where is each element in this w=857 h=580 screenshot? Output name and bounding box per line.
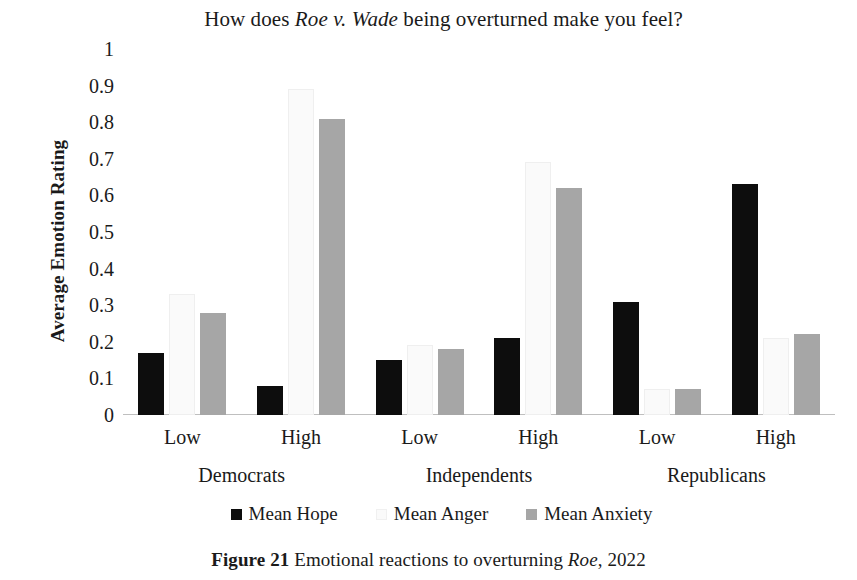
chart-title-part-after: being overturned make you feel? <box>398 7 683 31</box>
chart-legend: Mean HopeMean AngerMean Anxiety <box>0 503 857 525</box>
x-axis-group-label-democrats: Democrats <box>198 463 285 487</box>
bar-independents-high-anxiety <box>556 188 582 415</box>
plot-area <box>123 49 835 415</box>
legend-item-anger: Mean Anger <box>376 503 488 525</box>
caption-text-before: Emotional reactions to overturning <box>289 549 568 570</box>
legend-swatch-anxiety-icon <box>526 509 537 520</box>
x-axis-baseline <box>123 414 835 415</box>
bar-democrats-high-anger <box>288 89 314 415</box>
bar-republicans-low-anger <box>644 389 670 415</box>
legend-item-anxiety: Mean Anxiety <box>526 503 652 525</box>
bar-democrats-high-hope <box>257 386 283 415</box>
y-axis-tick-label: 0.6 <box>30 185 114 205</box>
y-axis-tick-label: 0.4 <box>30 259 114 279</box>
x-axis-tick-label-low: Low <box>639 425 676 449</box>
y-axis-tick-label: 0.2 <box>30 332 114 352</box>
legend-label: Mean Hope <box>249 503 338 525</box>
bar-independents-high-anger <box>525 162 551 415</box>
x-axis-tick-label-high: High <box>756 425 796 449</box>
y-axis-tick-labels: 10.90.80.70.60.50.40.30.20.10 <box>30 0 114 580</box>
legend-swatch-anger-icon <box>376 509 387 520</box>
y-axis-tick-label: 0.8 <box>30 112 114 132</box>
x-axis-group-label-independents: Independents <box>426 463 533 487</box>
figure-number: Figure 21 <box>211 549 289 570</box>
legend-label: Mean Anxiety <box>544 503 652 525</box>
figure-caption: Figure 21 Emotional reactions to overtur… <box>0 548 857 572</box>
caption-italic-roe: Roe <box>568 549 598 570</box>
bar-republicans-high-hope <box>732 184 758 415</box>
x-axis-level-labels: LowHighLowHighLowHigh <box>123 425 835 451</box>
x-axis-tick-label-high: High <box>518 425 558 449</box>
bar-independents-low-anxiety <box>438 349 464 415</box>
y-axis-tick-label: 0.1 <box>30 368 114 388</box>
figure-container: How does Roe v. Wade being overturned ma… <box>0 0 857 580</box>
bar-republicans-high-anger <box>763 338 789 415</box>
bar-republicans-low-hope <box>613 302 639 415</box>
bar-democrats-low-anxiety <box>200 313 226 415</box>
x-axis-group-label-republicans: Republicans <box>667 463 766 487</box>
legend-swatch-hope-icon <box>231 509 242 520</box>
bar-independents-low-anger <box>407 345 433 415</box>
bar-democrats-low-hope <box>138 353 164 415</box>
x-axis-group-labels: DemocratsIndependentsRepublicans <box>123 463 835 491</box>
chart-title-part-before: How does <box>204 7 295 31</box>
chart-title-part-italic: Roe v. Wade <box>295 7 398 31</box>
bar-democrats-low-anger <box>169 294 195 415</box>
legend-label: Mean Anger <box>394 503 488 525</box>
bar-independents-low-hope <box>376 360 402 415</box>
bar-republicans-low-anxiety <box>675 389 701 415</box>
bar-republicans-high-anxiety <box>794 334 820 415</box>
y-axis-tick-label: 0.3 <box>30 295 114 315</box>
y-axis-tick-label: 0 <box>30 405 114 425</box>
x-axis-tick-label-low: Low <box>401 425 438 449</box>
x-axis-tick-label-high: High <box>281 425 321 449</box>
y-axis-tick-label: 1 <box>30 39 114 59</box>
y-axis-tick-label: 0.5 <box>30 222 114 242</box>
y-axis-tick-label: 0.9 <box>30 76 114 96</box>
x-axis-tick-label-low: Low <box>164 425 201 449</box>
chart-title: How does Roe v. Wade being overturned ma… <box>0 6 857 32</box>
caption-text-after: , 2022 <box>598 549 646 570</box>
legend-item-hope: Mean Hope <box>231 503 338 525</box>
y-axis-tick-label: 0.7 <box>30 149 114 169</box>
bar-independents-high-hope <box>494 338 520 415</box>
bar-democrats-high-anxiety <box>319 119 345 415</box>
